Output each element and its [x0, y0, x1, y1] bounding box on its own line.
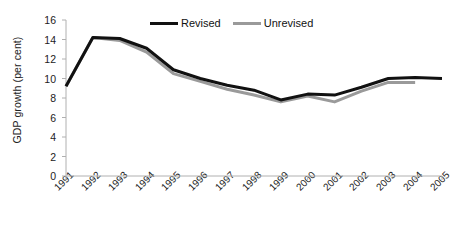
chart-legend: RevisedUnrevised	[150, 17, 321, 29]
plot-area	[0, 0, 464, 229]
legend-label: Unrevised	[264, 17, 314, 29]
legend-item-revised[interactable]: Revised	[150, 17, 221, 29]
legend-swatch-revised-icon	[150, 22, 178, 25]
series-line-revised	[66, 38, 442, 100]
legend-swatch-unrevised-icon	[233, 22, 261, 25]
gdp-growth-line-chart: GDP growth (per cent) 0246810121416 1991…	[0, 0, 464, 229]
legend-item-unrevised[interactable]: Unrevised	[233, 17, 314, 29]
legend-label: Revised	[181, 17, 221, 29]
series-line-unrevised	[66, 38, 415, 102]
